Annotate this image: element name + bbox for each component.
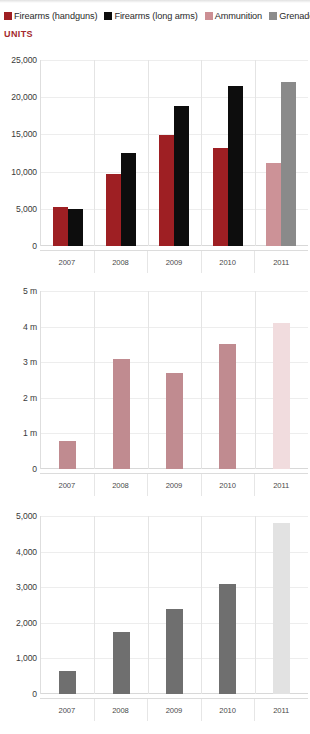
x-axis-tick: [254, 251, 255, 273]
x-axis-label-2007: 2007: [59, 258, 76, 267]
x-axis-tick: [201, 251, 202, 273]
y-axis-tick-label: 0: [1, 241, 37, 251]
plot-inner: 05,00010,00015,00020,00025,000: [41, 60, 308, 246]
legend-label: Ammunition: [215, 11, 263, 21]
bar-group-2009[interactable]: [148, 516, 201, 694]
bar-group-2007[interactable]: [41, 60, 94, 246]
y-axis-tick-label: 10,000: [1, 167, 37, 177]
plot-area-grenades: 01,0002,0003,0004,0005,000: [40, 516, 308, 694]
legend-label: Grenades: [279, 11, 310, 21]
x-axis-label-2008: 2008: [112, 481, 129, 490]
bar-ammunition-2011-1[interactable]: [273, 323, 290, 469]
plot-area-ammunition: 01 m2 m3 m4 m5 m: [40, 291, 308, 469]
y-axis-tick-label: 4 m: [1, 322, 37, 332]
x-axis-labels-grenades: 20072008200920102011: [40, 698, 308, 720]
square-swatch-icon: [269, 12, 277, 20]
bar-ammunition-2007-1[interactable]: [59, 441, 76, 469]
bar-ammunition-2009-1[interactable]: [166, 373, 183, 469]
x-axis-labels-ammunition: 20072008200920102011: [40, 473, 308, 495]
plot-inner: 01,0002,0003,0004,0005,000: [41, 516, 308, 694]
units-caption: UNITS: [4, 29, 33, 39]
bar-group-2008[interactable]: [94, 516, 147, 694]
bar-group-2010[interactable]: [201, 291, 254, 469]
bar-grenades-2009-1[interactable]: [166, 609, 183, 694]
bar-group-2007[interactable]: [41, 291, 94, 469]
bar-grenades-2008-1[interactable]: [113, 632, 130, 694]
y-axis-tick-label: 1,000: [1, 653, 37, 663]
legend-label: Firearms (handguns): [14, 11, 97, 21]
x-axis-label-2008: 2008: [112, 258, 129, 267]
x-axis-tick: [94, 251, 95, 273]
bar-firearms-2009-1[interactable]: [159, 135, 174, 246]
x-axis-tick: [201, 474, 202, 496]
chart-page: Firearms (handguns) Firearms (long arms)…: [0, 0, 310, 734]
bar-firearms-2007-2[interactable]: [68, 209, 83, 246]
bar-group-2010[interactable]: [201, 60, 254, 246]
x-axis-labels-firearms: 20072008200920102011: [40, 250, 308, 272]
y-axis-tick-label: 15,000: [1, 129, 37, 139]
y-axis-tick-label: 3 m: [1, 357, 37, 367]
x-axis-label-2011: 2011: [273, 481, 289, 490]
bar-group-2007[interactable]: [41, 516, 94, 694]
legend-item-long-arms: Firearms (long arms): [104, 11, 197, 21]
bar-firearms-2007-1[interactable]: [53, 207, 68, 246]
bar-firearms-2008-1[interactable]: [106, 174, 121, 246]
legend-item-ammunition: Ammunition: [205, 11, 263, 21]
bar-firearms-2011-1[interactable]: [266, 163, 281, 246]
bar-grenades-2011-1[interactable]: [273, 523, 290, 694]
x-axis-label-2010: 2010: [219, 258, 236, 267]
bar-grenades-2010-1[interactable]: [219, 584, 236, 694]
square-swatch-icon: [205, 12, 213, 20]
x-axis-label-2009: 2009: [166, 481, 183, 490]
y-axis-tick-label: 20,000: [1, 92, 37, 102]
bar-group-2009[interactable]: [148, 60, 201, 246]
bar-ammunition-2010-1[interactable]: [219, 344, 236, 469]
y-axis-tick-label: 4,000: [1, 547, 37, 557]
bar-group-2008[interactable]: [94, 60, 147, 246]
x-axis-tick: [147, 251, 148, 273]
page-top-divider: [0, 0, 310, 3]
y-axis-tick-label: 25,000: [1, 55, 37, 65]
x-axis-label-2007: 2007: [59, 481, 76, 490]
square-swatch-icon: [4, 12, 12, 20]
bar-group-2011[interactable]: [255, 291, 308, 469]
x-axis-label-2007: 2007: [59, 706, 76, 715]
bar-firearms-2010-2[interactable]: [228, 86, 243, 246]
y-axis-tick-label: 2 m: [1, 393, 37, 403]
y-axis-tick-label: 0: [1, 689, 37, 699]
x-axis-label-2011: 2011: [273, 706, 289, 715]
x-axis-tick: [147, 474, 148, 496]
y-axis-tick-label: 0: [1, 464, 37, 474]
bar-firearms-2011-2[interactable]: [281, 82, 296, 246]
bar-group-2011[interactable]: [255, 516, 308, 694]
bar-group-2010[interactable]: [201, 516, 254, 694]
y-axis-tick-label: 5,000: [1, 204, 37, 214]
x-axis-label-2011: 2011: [273, 258, 289, 267]
bar-firearms-2009-2[interactable]: [174, 106, 189, 246]
y-axis-tick-label: 1 m: [1, 428, 37, 438]
bar-firearms-2010-1[interactable]: [213, 148, 228, 246]
legend-label: Firearms (long arms): [114, 11, 197, 21]
x-axis-tick: [147, 699, 148, 721]
bar-grenades-2007-1[interactable]: [59, 671, 76, 694]
bar-firearms-2008-2[interactable]: [121, 153, 136, 246]
x-axis-tick: [201, 699, 202, 721]
plot-area-firearms: 05,00010,00015,00020,00025,000: [40, 60, 308, 246]
bar-ammunition-2008-1[interactable]: [113, 359, 130, 469]
y-axis-tick-label: 5 m: [1, 286, 37, 296]
x-axis-label-2008: 2008: [112, 706, 129, 715]
x-axis-tick: [94, 474, 95, 496]
x-axis-label-2010: 2010: [219, 481, 236, 490]
y-axis-tick-label: 3,000: [1, 582, 37, 592]
x-axis-label-2010: 2010: [219, 706, 236, 715]
bar-group-2011[interactable]: [255, 60, 308, 246]
square-swatch-icon: [104, 12, 112, 20]
legend-item-handguns: Firearms (handguns): [4, 11, 97, 21]
chart-legend: Firearms (handguns) Firearms (long arms)…: [4, 9, 308, 23]
y-axis-tick-label: 2,000: [1, 618, 37, 628]
bar-group-2009[interactable]: [148, 291, 201, 469]
bar-group-2008[interactable]: [94, 291, 147, 469]
x-axis-label-2009: 2009: [166, 258, 183, 267]
legend-item-grenades: Grenades: [269, 11, 310, 21]
x-axis-tick: [254, 474, 255, 496]
